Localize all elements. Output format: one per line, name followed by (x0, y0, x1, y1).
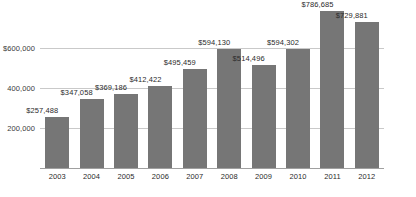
plot-area: 200,000400,000$600,000 $257,488$347,058$… (40, 8, 384, 168)
bar-series: $257,488$347,058$369,186$412,422$495,459… (40, 8, 384, 168)
x-axis-line (40, 168, 384, 169)
x-axis-label-2011: 2011 (315, 172, 349, 181)
bar[interactable] (148, 86, 172, 168)
x-axis-label-2009: 2009 (247, 172, 281, 181)
x-axis-label-2003: 2003 (40, 172, 74, 181)
bar-value-label: $495,459 (164, 58, 196, 67)
bar[interactable] (355, 22, 379, 168)
bar-value-label: $729,881 (336, 11, 368, 20)
x-axis-label-2006: 2006 (143, 172, 177, 181)
bar-value-label: $514,496 (233, 54, 265, 63)
bar[interactable] (80, 99, 104, 168)
y-axis-tick-label: 200,000 (7, 124, 35, 133)
x-axis-category-labels: 2003200420052006200720082009201020112012 (40, 172, 384, 186)
bar[interactable] (217, 49, 241, 168)
bar-value-label: $594,130 (198, 38, 230, 47)
bar[interactable] (45, 117, 69, 168)
bar-value-label: $257,488 (26, 106, 58, 115)
bar[interactable] (286, 49, 310, 168)
x-axis-label-2012: 2012 (350, 172, 384, 181)
bar[interactable] (183, 69, 207, 168)
bar[interactable] (252, 65, 276, 168)
y-axis-tick-label: 400,000 (7, 84, 35, 93)
bar-chart: 200,000400,000$600,000 $257,488$347,058$… (0, 0, 416, 197)
x-axis-label-2007: 2007 (178, 172, 212, 181)
x-axis-label-2005: 2005 (109, 172, 143, 181)
y-axis-tick-label: $600,000 (3, 44, 35, 53)
x-axis-label-2004: 2004 (75, 172, 109, 181)
bar-value-label: $594,302 (267, 38, 299, 47)
bar-value-label: $412,422 (129, 75, 161, 84)
x-axis-label-2010: 2010 (281, 172, 315, 181)
bar[interactable] (114, 94, 138, 168)
bar-value-label: $369,186 (95, 83, 127, 92)
x-axis-label-2008: 2008 (212, 172, 246, 181)
bar[interactable] (320, 11, 344, 168)
bar-value-label: $786,685 (301, 0, 333, 9)
bar-value-label: $347,058 (61, 88, 93, 97)
